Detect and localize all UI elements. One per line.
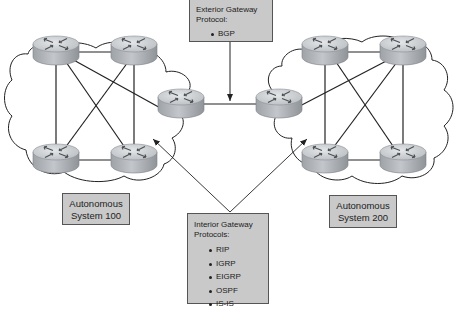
router-icon bbox=[111, 144, 157, 173]
ext-protocol-list: BGP bbox=[210, 29, 266, 39]
protocol-item-ospf: OSPF bbox=[208, 286, 262, 296]
as100-label-line1: Autonomous bbox=[65, 198, 127, 210]
ext-title-line1: Exterior Gateway bbox=[196, 5, 266, 15]
as100-label: Autonomous System 100 bbox=[62, 193, 130, 225]
int-protocol-list: RIP IGRP EIGRP OSPF IS-IS bbox=[208, 245, 262, 309]
protocol-item-isis: IS-IS bbox=[208, 299, 262, 309]
as200-label-line1: Autonomous bbox=[332, 200, 394, 212]
igp-arrow-right bbox=[230, 139, 307, 212]
router-icon bbox=[33, 36, 79, 65]
protocol-item-igrp: IGRP bbox=[208, 259, 262, 269]
router-icon bbox=[111, 36, 157, 65]
int-title-line1: Interior Gateway bbox=[194, 220, 262, 230]
protocol-item-rip: RIP bbox=[208, 245, 262, 255]
int-title-line2: Protocols: bbox=[194, 230, 262, 240]
router-icon bbox=[380, 144, 426, 173]
router-icon bbox=[302, 36, 348, 65]
network-diagram: Exterior Gateway Protocol: BGP Interior … bbox=[0, 0, 459, 309]
ext-title-line2: Protocol: bbox=[196, 15, 266, 25]
protocol-item-bgp: BGP bbox=[210, 29, 266, 39]
protocol-item-eigrp: EIGRP bbox=[208, 272, 262, 282]
router-icon bbox=[380, 36, 426, 65]
router-icon bbox=[302, 144, 348, 173]
igp-arrow-left bbox=[153, 139, 230, 212]
exterior-gateway-protocol-box: Exterior Gateway Protocol: BGP bbox=[189, 0, 273, 42]
border-router-icon bbox=[256, 89, 302, 118]
border-router-icon bbox=[158, 89, 204, 118]
as200-label: Autonomous System 200 bbox=[329, 195, 397, 228]
interior-gateway-protocols-box: Interior Gateway Protocols: RIP IGRP EIG… bbox=[187, 213, 269, 304]
router-icon bbox=[33, 144, 79, 173]
as200-label-line2: System 200 bbox=[332, 212, 394, 224]
as100-label-line2: System 100 bbox=[65, 210, 127, 222]
